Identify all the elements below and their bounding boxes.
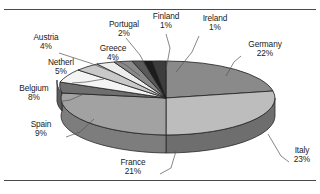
pie-label-finland-value: 1% bbox=[143, 21, 189, 30]
pie-label-greece: Greece 4% bbox=[88, 44, 138, 63]
leader-line-france bbox=[160, 151, 176, 174]
pie-label-ireland: Ireland 1% bbox=[192, 14, 238, 33]
pie-label-greece-value: 4% bbox=[88, 53, 138, 62]
pie-label-portugal-value: 2% bbox=[98, 29, 150, 38]
pie-label-netherlands-value: 5% bbox=[36, 67, 86, 76]
pie-label-italy-value: 23% bbox=[285, 155, 319, 164]
pie-label-france-value: 21% bbox=[108, 167, 158, 176]
pie-label-netherlands: Netherl 5% bbox=[36, 58, 86, 77]
bottom-divider-rule bbox=[4, 180, 316, 181]
pie-label-italy: Italy 23% bbox=[285, 146, 319, 165]
pie-label-belgium-value: 8% bbox=[8, 93, 60, 102]
pie-label-spain: Spain 9% bbox=[18, 120, 64, 139]
pie-label-finland: Finland 1% bbox=[143, 12, 189, 31]
pie-label-ireland-value: 1% bbox=[192, 23, 238, 32]
pie-label-spain-value: 9% bbox=[18, 129, 64, 138]
chart-frame: Austria 4% Netherl 5% Belgium 8% Spain 9… bbox=[0, 0, 320, 194]
pie-label-germany-value: 22% bbox=[237, 49, 293, 58]
pie-label-austria-value: 4% bbox=[21, 42, 71, 51]
pie-slices bbox=[60, 61, 275, 135]
pie-label-germany: Germany 22% bbox=[237, 40, 293, 59]
pie-label-belgium: Belgium 8% bbox=[8, 84, 60, 103]
pie-label-austria: Austria 4% bbox=[21, 33, 71, 52]
pie-label-france: France 21% bbox=[108, 158, 158, 177]
